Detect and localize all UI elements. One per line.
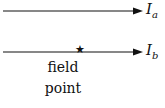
wire-b-arrowhead-icon (133, 49, 143, 56)
field-point-label-line2: point (44, 77, 82, 99)
current-a-label: Ia (146, 0, 158, 20)
current-a-subscript: a (152, 9, 158, 20)
field-point-label-line1: field (44, 56, 82, 78)
wire-a-arrowhead-icon (133, 8, 143, 15)
current-b-label: Ib (146, 41, 158, 61)
current-b-subscript: b (152, 50, 158, 61)
field-point-star-icon: ★ (75, 44, 85, 56)
